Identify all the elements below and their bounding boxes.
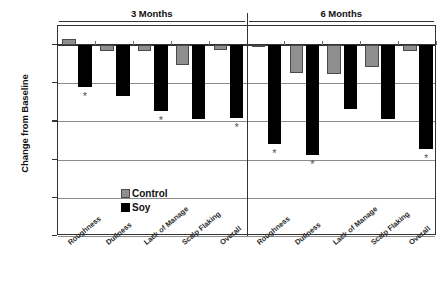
group-header-6-months: 6 Months xyxy=(247,8,437,19)
significance-asterisk: * xyxy=(421,153,431,164)
x-axis-minor-tick xyxy=(133,41,134,45)
x-axis-minor-tick xyxy=(95,41,96,45)
legend-label-soy: Soy xyxy=(132,202,150,213)
legend-item-control: Control xyxy=(121,186,168,200)
group-header-rule xyxy=(249,21,435,22)
significance-asterisk: * xyxy=(156,115,166,126)
x-axis-minor-tick xyxy=(322,41,323,45)
plot-area: ****** Control Soy xyxy=(57,25,436,235)
bar-soy xyxy=(230,45,243,118)
bar-soy xyxy=(381,45,394,119)
bar-soy xyxy=(78,45,91,87)
legend: Control Soy xyxy=(121,186,168,214)
x-axis-minor-tick xyxy=(360,41,361,45)
bar-control xyxy=(62,39,75,45)
bar-control xyxy=(290,45,303,73)
bar-soy xyxy=(116,45,129,96)
legend-swatch-control xyxy=(121,189,130,198)
bar-soy xyxy=(192,45,205,119)
significance-asterisk: * xyxy=(270,148,280,159)
significance-asterisk: * xyxy=(232,122,242,133)
group-header-3-months: 3 Months xyxy=(57,8,247,19)
bar-soy xyxy=(154,45,167,111)
y-axis-title: Change from Baseline xyxy=(19,54,30,194)
legend-item-soy: Soy xyxy=(121,200,168,214)
bar-control xyxy=(327,45,340,74)
bar-soy xyxy=(306,45,319,154)
significance-asterisk: * xyxy=(307,159,317,170)
group-divider xyxy=(247,13,248,236)
group-header-rule xyxy=(59,21,245,22)
bar-control xyxy=(214,45,227,50)
legend-swatch-soy xyxy=(121,203,130,212)
x-axis-minor-tick xyxy=(209,41,210,45)
significance-asterisk: * xyxy=(80,91,90,102)
y-axis-tick-mark xyxy=(52,235,57,236)
legend-label-control: Control xyxy=(132,188,168,199)
bar-soy xyxy=(419,45,432,149)
bar-control xyxy=(176,45,189,65)
bar-control xyxy=(365,45,378,67)
bar-control xyxy=(252,45,265,47)
bar-control xyxy=(100,45,113,51)
bar-control xyxy=(138,45,151,51)
x-axis-minor-tick xyxy=(398,41,399,45)
bar-chart: Change from Baseline 0-0.3-0.6-0.9-1.2-1… xyxy=(0,0,448,293)
x-axis-minor-tick xyxy=(284,41,285,45)
bar-control xyxy=(403,45,416,51)
bar-soy xyxy=(268,45,281,144)
x-axis-minor-tick xyxy=(436,41,437,45)
x-axis-minor-tick xyxy=(171,41,172,45)
bar-soy xyxy=(344,45,357,109)
